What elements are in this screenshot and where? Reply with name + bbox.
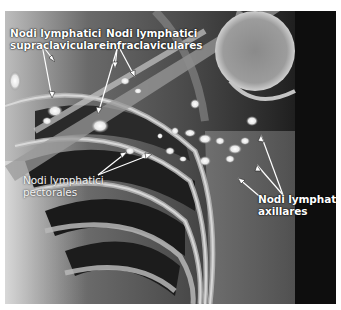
label-line-2: axillares <box>258 205 336 217</box>
label-line-1: Nodi lymphatici <box>10 27 112 39</box>
label-infraclavicular-nodes: Nodi lymphatici infraclaviculares <box>106 27 203 51</box>
label-line-1: Nodi lymphatici <box>258 193 336 205</box>
label-pectoral-nodes: Nodi lymphatici pectorales <box>23 174 104 198</box>
label-axillary-nodes: Nodi lymphatici axillares <box>258 193 336 217</box>
label-line-2: pectorales <box>23 186 104 198</box>
label-line-2: infraclaviculares <box>106 39 203 51</box>
xray-image: Nodi lymphatici supraclaviculares Nodi l… <box>5 11 336 304</box>
label-supraclavicular-nodes: Nodi lymphatici supraclaviculares <box>10 27 112 51</box>
xray-anatomy-illustration <box>5 11 336 304</box>
label-line-1: Nodi lymphatici <box>23 174 104 186</box>
label-line-2: supraclaviculares <box>10 39 112 51</box>
label-line-1: Nodi lymphatici <box>106 27 203 39</box>
